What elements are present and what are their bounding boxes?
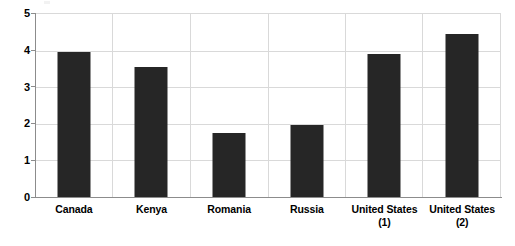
category-label-romania: Romania (190, 203, 268, 216)
category-label-line1: Romania (207, 203, 251, 215)
category-label-line1: Canada (55, 203, 92, 215)
category-label-line1: Kenya (136, 203, 167, 215)
category-label-canada: Canada (35, 203, 113, 216)
bar-slot-us-2 (423, 13, 501, 197)
y-tick-label-1: 1 (4, 155, 30, 166)
category-label-line2: (2) (423, 216, 501, 229)
y-tick-label-5: 5 (4, 8, 30, 19)
x-axis-category-labels: Canada Kenya Romania Russia United State… (35, 203, 501, 246)
bars-layer (35, 13, 501, 197)
bar-russia[interactable] (290, 125, 323, 197)
y-tick-label-4: 4 (4, 44, 30, 55)
y-tick-label-2: 2 (4, 118, 30, 129)
category-label-line1: United States (352, 203, 418, 215)
cropped-title-artifact (44, 1, 50, 4)
bar-kenya[interactable] (135, 67, 168, 197)
y-tick-label-3: 3 (4, 81, 30, 92)
category-label-russia: Russia (268, 203, 346, 216)
category-label-line1: United States (429, 203, 495, 215)
category-label-kenya: Kenya (113, 203, 191, 216)
bar-canada[interactable] (57, 52, 90, 197)
bar-united-states-1[interactable] (368, 54, 401, 197)
bar-chart: 5 4 3 2 1 0 Canada Kenya Romania (0, 0, 515, 246)
x-axis-baseline (35, 197, 502, 198)
bar-romania[interactable] (213, 133, 246, 197)
category-label-us-2: United States(2) (423, 203, 501, 229)
category-label-line2: (1) (346, 216, 424, 229)
y-tick-label-0: 0 (4, 192, 30, 203)
category-label-line1: Russia (290, 203, 324, 215)
y-axis-tick-labels: 5 4 3 2 1 0 (0, 13, 30, 197)
bar-united-states-2[interactable] (446, 34, 479, 197)
bar-slot-us-1 (346, 13, 424, 197)
bar-slot-russia (268, 13, 346, 197)
bar-slot-kenya (113, 13, 191, 197)
bar-slot-canada (35, 13, 113, 197)
bar-slot-romania (190, 13, 268, 197)
category-label-us-1: United States(1) (346, 203, 424, 229)
